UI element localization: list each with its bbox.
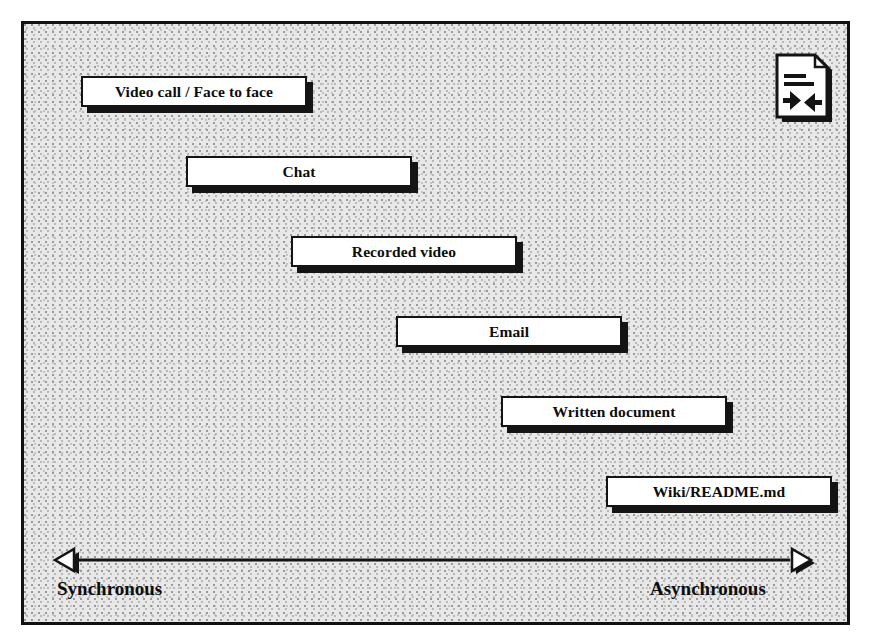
- spectrum-item-label: Wiki/README.md: [653, 484, 785, 500]
- spectrum-item-video-call: Video call / Face to face: [81, 76, 307, 107]
- spectrum-item-wiki-readme: Wiki/README.md: [606, 476, 832, 507]
- spectrum-item-email: Email: [396, 316, 622, 347]
- spectrum-item-label: Written document: [552, 404, 675, 420]
- document-compress-icon: [774, 52, 836, 128]
- spectrum-item-written-document: Written document: [501, 396, 727, 427]
- axis-label-asynchronous: Asynchronous: [650, 579, 766, 598]
- spectrum-item-chat: Chat: [186, 156, 412, 187]
- axis-label-synchronous: Synchronous: [57, 579, 162, 598]
- spectrum-item-recorded-video: Recorded video: [291, 236, 517, 267]
- spectrum-item-label: Chat: [282, 164, 315, 180]
- spectrum-item-label: Email: [489, 324, 529, 340]
- spectrum-item-label: Video call / Face to face: [115, 84, 273, 100]
- diagram-frame: Video call / Face to face Chat Recorded …: [21, 21, 850, 625]
- spectrum-item-label: Recorded video: [352, 244, 456, 260]
